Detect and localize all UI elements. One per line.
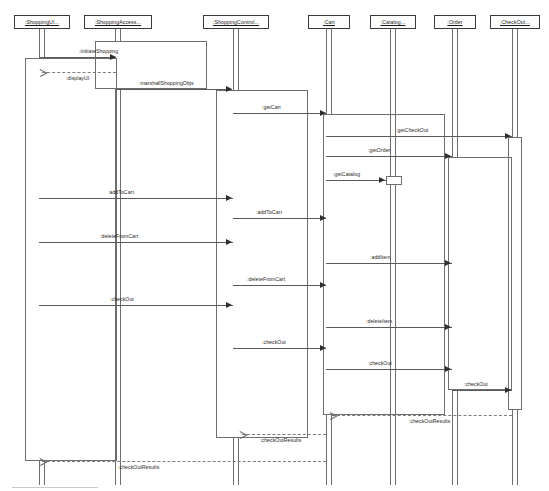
lifeline-stub-checkout-bottom (512, 409, 518, 485)
arrowhead-get-catalog (379, 177, 385, 183)
message-label-add-to-cart-ui: :addToCart (108, 189, 134, 195)
lifeline-stub-shopping-control-top (233, 29, 239, 91)
message-line-delete-from-cart-control[interactable] (233, 285, 326, 286)
message-label-delete-from-cart-ui: :deleteFromCart (100, 233, 138, 239)
message-line-get-catalog[interactable] (326, 180, 386, 181)
lifeline-label-catalog: :Catalog... (381, 19, 406, 25)
message-label-get-cart: :getCart (262, 104, 281, 110)
lifeline-stub-cart-top (326, 29, 332, 115)
lifeline-stub-shopping-ui-top (39, 29, 45, 59)
arrowhead-initiate-shopping (110, 54, 116, 60)
message-label-initiate-shopping: :initiateShopping (79, 48, 118, 54)
message-line-display-ui[interactable] (42, 72, 116, 73)
lifeline-head-shopping-access[interactable]: :ShoppingAccess... (84, 15, 152, 29)
arrowhead-checkout-cart (445, 366, 451, 372)
message-line-add-item[interactable] (326, 263, 452, 264)
activation-checkout (508, 137, 522, 410)
message-label-get-checkout: :getCheckOut (396, 127, 428, 133)
lifeline-head-checkout[interactable]: :CheckOut... (490, 15, 540, 29)
message-line-checkout-cart[interactable] (326, 369, 452, 370)
message-label-display-ui: :displayUI (66, 75, 89, 81)
message-line-get-checkout[interactable] (326, 136, 512, 137)
lifeline-label-shopping-control: :ShoppingControl... (213, 19, 259, 25)
arrowhead-checkout-ui (226, 302, 232, 308)
arrowhead-delete-from-cart-control (320, 282, 326, 288)
activation-shopping-control (216, 90, 308, 438)
message-label-get-order: :getOrder (368, 147, 390, 153)
message-line-checkout-ui[interactable] (39, 305, 233, 306)
message-line-checkout-results-control[interactable] (242, 434, 326, 435)
message-label-checkout-order: :checkOut (464, 381, 488, 387)
arrowhead-checkout-results-order (330, 412, 337, 419)
arrowhead-checkout-results-control (240, 431, 247, 438)
message-label-delete-from-cart-control: :deleteFromCart (247, 276, 285, 282)
lifeline-head-shopping-ui[interactable]: :ShoppingUI... (14, 15, 70, 29)
message-line-get-order[interactable] (326, 156, 452, 157)
lifeline-head-order[interactable]: :Order (434, 15, 476, 29)
arrowhead-display-ui (40, 69, 47, 76)
message-label-get-catalog: :getCatalog (333, 171, 360, 177)
message-label-checkout-control: :checkOut (262, 339, 286, 345)
arrowhead-get-order (445, 153, 451, 159)
message-line-checkout-control[interactable] (233, 348, 326, 349)
message-line-checkout-order[interactable] (452, 390, 512, 391)
message-label-checkout-cart: :checkOut (368, 360, 392, 366)
lifeline-head-cart[interactable]: :Cart (308, 15, 350, 29)
arrowhead-delete-from-cart-ui (226, 239, 232, 245)
message-line-add-to-cart-ui[interactable] (39, 198, 233, 199)
arrowhead-get-cart (320, 110, 326, 116)
message-line-delete-from-cart-ui[interactable] (39, 242, 233, 243)
activation-order (448, 157, 512, 390)
activation-shopping-ui (25, 58, 117, 461)
arrowhead-marshall-shopping-objs (226, 86, 232, 92)
message-line-delete-item[interactable] (326, 327, 452, 328)
message-label-delete-item: :deleteItem (366, 318, 392, 324)
lifeline-stub-cart-bottom (326, 414, 332, 485)
footer-rule (12, 487, 98, 488)
message-label-add-to-cart-control: :addToCart (256, 209, 282, 215)
arrowhead-add-item (445, 260, 451, 266)
message-label-checkout-results-cart: :checkOutResults (118, 464, 159, 470)
message-line-initiate-shopping[interactable] (39, 57, 116, 58)
lifeline-label-cart: :Cart (323, 19, 335, 25)
lifeline-head-catalog[interactable]: :Catalog... (370, 15, 416, 29)
arrowhead-add-to-cart-control (320, 215, 326, 221)
lifeline-stub-order-top (452, 29, 458, 158)
message-line-add-to-cart-control[interactable] (233, 218, 326, 219)
activation-catalog (386, 176, 402, 185)
lifeline-stub-checkout-top (512, 29, 518, 138)
message-label-marshall-shopping-objs: :marshallShoppingObjs (139, 80, 194, 86)
arrowhead-delete-item (445, 324, 451, 330)
arrowhead-get-checkout (505, 133, 511, 139)
message-line-marshall-shopping-objs[interactable] (116, 89, 232, 90)
arrowhead-checkout-results-cart (40, 458, 47, 465)
arrowhead-checkout-control (320, 345, 326, 351)
lifeline-stub-order-bottom (452, 389, 458, 485)
lifeline-label-shopping-ui: :ShoppingUI... (25, 19, 59, 25)
message-line-get-cart[interactable] (233, 113, 326, 114)
lifeline-label-shopping-access: :ShoppingAccess... (95, 19, 141, 25)
sequence-diagram-canvas: :ShoppingUI... :ShoppingAccess... :Shopp… (0, 0, 549, 491)
message-line-checkout-results-cart[interactable] (42, 461, 326, 462)
message-label-add-item: :addItem (370, 254, 391, 260)
message-label-checkout-results-order: :checkOutResults (409, 418, 450, 424)
lifeline-head-shopping-control[interactable]: :ShoppingControl... (203, 15, 269, 29)
arrowhead-checkout-order (505, 387, 511, 393)
lifeline-label-order: :Order (447, 19, 462, 25)
message-label-checkout-ui: :checkOut (110, 296, 134, 302)
message-line-checkout-results-order[interactable] (332, 415, 512, 416)
arrowhead-add-to-cart-ui (226, 195, 232, 201)
lifeline-label-checkout: :CheckOut... (500, 19, 530, 25)
message-label-checkout-results-control: :checkOutResults (260, 437, 301, 443)
